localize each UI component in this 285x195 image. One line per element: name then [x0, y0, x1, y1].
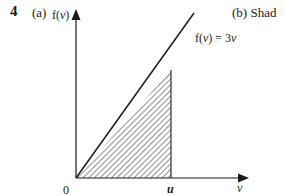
graph-figure [0, 0, 285, 195]
shaded-area [70, 60, 180, 185]
y-axis-arrow-icon [72, 9, 81, 20]
x-axis-arrow-icon [238, 174, 249, 183]
